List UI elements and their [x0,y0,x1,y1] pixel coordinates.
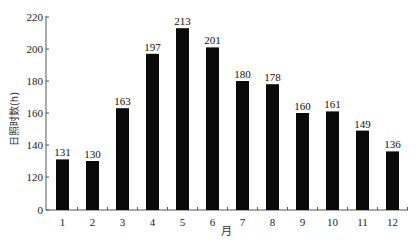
bar [386,151,399,210]
x-tick-label: 3 [120,216,126,228]
bar [326,111,339,210]
bars: 131130163197213201180178160161149136 [54,15,401,210]
x-axis-title: 月 [221,225,232,238]
x-tick-label: 12 [387,216,398,228]
bar-value-label: 149 [354,118,371,130]
bar [236,81,249,210]
x-tick-label: 2 [90,216,96,228]
bar-value-label: 163 [114,95,131,107]
bar-value-label: 201 [204,34,221,46]
bar-value-label: 178 [264,71,281,83]
y-tick-label: 220 [27,11,44,23]
x-tick-label: 8 [270,216,276,228]
y-tick-label: 200 [27,43,44,55]
bar-value-label: 160 [294,100,311,112]
bar-value-label: 131 [54,146,71,158]
y-axis: 0120140160180200220 [27,11,50,216]
bar-value-label: 130 [84,148,101,160]
y-tick-label: 120 [27,171,44,183]
bar-value-label: 136 [384,138,401,150]
bar [176,28,189,210]
x-tick-label: 1 [60,216,66,228]
y-tick-label: 0 [38,204,44,216]
y-tick-label: 180 [27,75,44,87]
bar-value-label: 197 [144,41,161,53]
bar-value-label: 213 [174,15,191,27]
bar [86,161,99,210]
bar-value-label: 180 [234,68,251,80]
x-tick-label: 7 [240,216,246,228]
y-tick-label: 140 [27,139,44,151]
x-tick-label: 4 [150,216,156,228]
bar [206,47,219,210]
x-tick-label: 10 [327,216,339,228]
x-tick-label: 9 [300,216,306,228]
bar [146,54,159,210]
x-tick-label: 6 [210,216,216,228]
x-tick-label: 5 [180,216,186,228]
bar [266,84,279,210]
y-axis-title: 日照时数(h) [8,92,20,146]
y-tick-label: 160 [27,107,44,119]
bar-value-label: 161 [324,98,341,110]
bar [56,159,69,210]
x-tick-label: 11 [357,216,368,228]
bar [356,131,369,210]
bar [116,108,129,210]
bar [296,113,309,210]
bar-chart: 0120140160180200220 123456789101112 1311… [0,0,419,247]
